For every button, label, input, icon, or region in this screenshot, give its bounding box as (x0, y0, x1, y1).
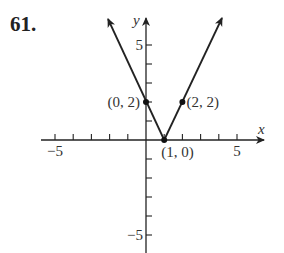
labels: (0, 2)(1, 0)(2, 2) (108, 94, 219, 161)
point-label: (0, 2) (108, 94, 141, 111)
function-curve (108, 18, 222, 140)
y-tick-label: 5 (136, 37, 144, 53)
point-label: (2, 2) (186, 94, 219, 111)
point-marker (179, 99, 185, 105)
y-tick-label: −5 (127, 227, 143, 243)
point-marker (143, 99, 149, 105)
x-tick-label: 5 (233, 143, 241, 159)
right-branch (164, 18, 222, 140)
point-marker (161, 137, 167, 143)
graph: xy −555−5 (0, 2)(1, 0)(2, 2) (0, 0, 284, 253)
point-label: (1, 0) (161, 144, 194, 161)
axes: xy (41, 12, 265, 253)
x-tick-label: −5 (47, 143, 63, 159)
y-axis-label: y (131, 12, 140, 28)
x-axis-label: x (257, 121, 265, 137)
